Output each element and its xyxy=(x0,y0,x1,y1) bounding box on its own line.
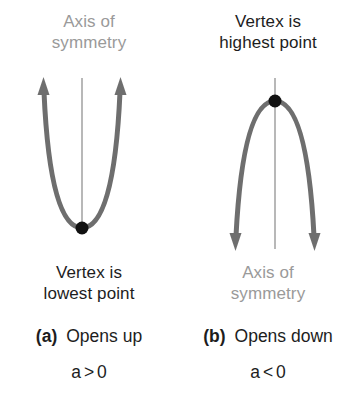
panel-label-opens-down: Opens down xyxy=(235,326,333,346)
parabola-orientation-figure: Axis of symmetry Vertex is lowest point … xyxy=(0,0,357,399)
condition-operator-up: > xyxy=(84,362,94,382)
arrow-up-right-icon xyxy=(115,77,127,95)
vertex-lowest-point-line1: Vertex is xyxy=(0,263,178,284)
axis-of-symmetry-bottom-line1: Axis of xyxy=(179,263,357,284)
condition-variable-down: a xyxy=(250,362,260,382)
condition-value-up: 0 xyxy=(97,362,107,382)
vertex-dot-up xyxy=(76,222,89,235)
condition-value-down: 0 xyxy=(276,362,286,382)
axis-of-symmetry-label-bottom: Axis of symmetry xyxy=(179,263,357,304)
condition-variable-up: a xyxy=(71,362,81,382)
vertex-dot-down xyxy=(269,95,282,108)
panel-opens-up: Axis of symmetry Vertex is lowest point … xyxy=(0,0,178,399)
condition-row-a-positive: a>0 xyxy=(0,362,178,383)
legend-row-opens-up: (a)Opens up xyxy=(0,326,178,347)
panel-tag-a: (a) xyxy=(36,326,57,346)
condition-row-a-negative: a<0 xyxy=(179,362,357,383)
arrow-down-right-icon xyxy=(309,233,321,251)
legend-row-opens-down: (b)Opens down xyxy=(179,326,357,347)
arrow-down-left-icon xyxy=(230,233,242,251)
panel-label-opens-up: Opens up xyxy=(66,326,142,346)
panel-opens-down: Vertex is highest point Axis of symmetry… xyxy=(179,0,357,399)
vertex-lowest-point-label: Vertex is lowest point xyxy=(0,263,178,304)
vertex-lowest-point-line2: lowest point xyxy=(0,284,178,305)
condition-operator-down: < xyxy=(263,362,273,382)
arrow-up-left-icon xyxy=(38,77,50,95)
axis-of-symmetry-bottom-line2: symmetry xyxy=(179,284,357,305)
panel-tag-b: (b) xyxy=(203,326,225,346)
